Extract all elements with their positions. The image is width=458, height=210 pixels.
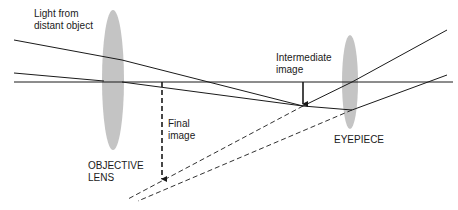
intermediate-image-label: Intermediate image — [276, 52, 332, 76]
objective-lens — [102, 10, 124, 150]
light-source-label: Light from distant object — [34, 8, 93, 32]
emerging-ray-lower — [352, 75, 447, 110]
objective-ray-middle — [122, 82, 303, 106]
emerging-ray-upper — [352, 30, 447, 82]
eyepiece-label: EYEPIECE — [334, 134, 384, 146]
final-image-label: Final image — [168, 118, 195, 142]
objective-lens-label: OBJECTIVE LENS — [88, 160, 144, 184]
virtual-ray-upper — [128, 106, 303, 199]
incoming-ray-middle — [14, 73, 104, 81]
